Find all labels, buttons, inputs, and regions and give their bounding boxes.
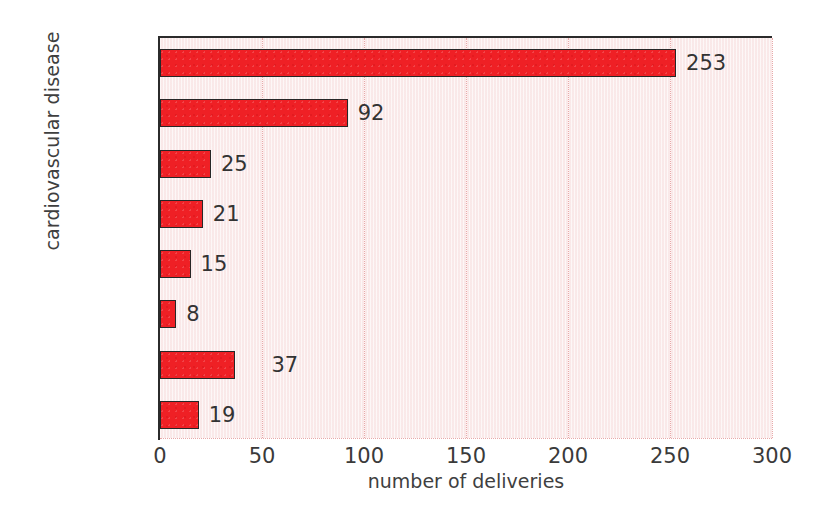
x-tick-label-250: 250 — [630, 444, 710, 468]
bar-row: 92 — [160, 88, 772, 138]
x-axis-title: number of deliveries — [160, 470, 772, 492]
x-axis-line — [160, 438, 772, 439]
bar-aoro-d[interactable] — [160, 200, 203, 228]
x-tick-label-100: 100 — [324, 444, 404, 468]
x-tick-label-150: 150 — [426, 444, 506, 468]
bar-value-label: 37 — [271, 353, 298, 377]
bar-row: 8 — [160, 289, 772, 339]
bar-row: 253 — [160, 38, 772, 88]
bar-others[interactable] — [160, 351, 235, 379]
bar-row: 25 — [160, 139, 772, 189]
bar-value-label: 8 — [186, 302, 199, 326]
bar-chart: cardiovascular disease 2539225211583719 … — [0, 0, 829, 519]
bar-row: 15 — [160, 239, 772, 289]
bar-unknown[interactable] — [160, 401, 199, 429]
bar-value-label: 253 — [686, 51, 726, 75]
bar-value-label: 21 — [213, 202, 240, 226]
bar-chd[interactable] — [160, 49, 676, 77]
x-tick-label-200: 200 — [528, 444, 608, 468]
bar-vhd[interactable] — [160, 99, 348, 127]
bar-value-label: 92 — [358, 101, 385, 125]
bar-value-label: 15 — [201, 252, 228, 276]
plot-area: 2539225211583719 — [160, 36, 772, 438]
bar-ph[interactable] — [160, 300, 176, 328]
bar-row: 37 — [160, 340, 772, 390]
bar-cm[interactable] — [160, 150, 211, 178]
x-tick-label-0: 0 — [120, 444, 200, 468]
x-tick-label-50: 50 — [222, 444, 302, 468]
bar-value-label: 19 — [209, 403, 236, 427]
y-axis-title: cardiovascular disease — [41, 1, 63, 281]
x-tick-label-300: 300 — [732, 444, 812, 468]
gridline-300 — [772, 38, 773, 438]
bar-row: 19 — [160, 390, 772, 440]
bar-value-label: 25 — [221, 152, 248, 176]
bar-kd[interactable] — [160, 250, 191, 278]
bar-row: 21 — [160, 189, 772, 239]
